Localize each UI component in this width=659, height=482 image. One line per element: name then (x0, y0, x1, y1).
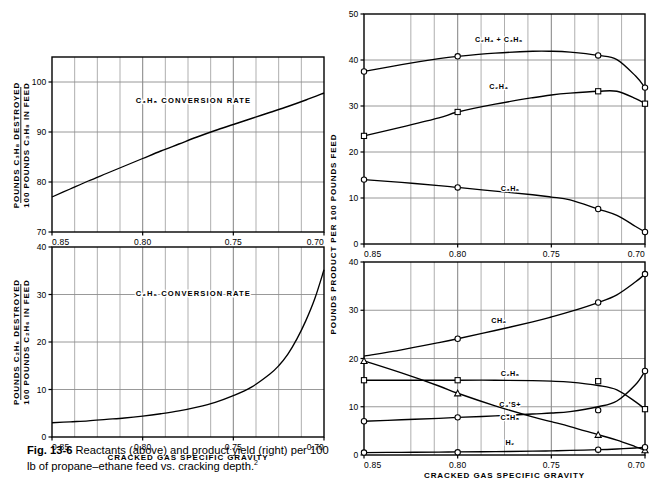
x-tick-label: 0.75 (543, 460, 560, 470)
data-marker (455, 378, 460, 383)
x-tick-label: 0.85 (52, 237, 69, 247)
figure-caption: Fig. 13-6 Reactants (above) and product … (27, 443, 332, 473)
x-tick-label: 0.85 (364, 249, 381, 259)
data-marker (361, 419, 366, 424)
y-tick-label: 20 (349, 354, 359, 364)
y-tick-label: 100 (32, 77, 47, 87)
data-marker (642, 229, 647, 234)
y-tick-label: 90 (37, 127, 47, 137)
data-marker (642, 407, 647, 412)
data-marker (455, 109, 460, 114)
data-marker (596, 89, 601, 94)
y-axis-title-ethane: POUNDS C₂H₆ DESTROYED100 POUNDS C₂H₆ IN … (12, 279, 31, 405)
x-tick-label: 0.80 (449, 249, 466, 259)
x-tick-label: 0.75 (543, 249, 560, 259)
y-tick-label: 0 (354, 239, 359, 249)
data-marker (642, 445, 647, 450)
data-marker (595, 206, 600, 211)
x-tick-label: 0.80 (134, 237, 151, 247)
data-marker (642, 101, 647, 106)
chart-propane-conversion: 0.850.800.750.70708090100C₃H₈ CONVERSION… (32, 57, 324, 247)
data-marker (361, 69, 366, 74)
plot-title: C₂H₆ CONVERSION RATE (136, 289, 251, 298)
series-label: C₂H₄ (489, 82, 508, 91)
data-marker (361, 133, 366, 138)
x-axis-title: CRACKED GAS SPECIFIC GRAVITY (424, 471, 585, 480)
y-tick-label: 30 (37, 290, 47, 300)
y-axis-title-propane: POUNDS C₃H₈ DESTROYED100 POUNDS C₃H₈ IN … (12, 82, 31, 208)
y-axis-title-ethane-line1: POUNDS C₂H₆ DESTROYED (12, 279, 21, 405)
y-tick-label: 50 (349, 9, 359, 19)
caption-footnote-marker: 2 (254, 459, 258, 466)
data-marker (455, 450, 460, 455)
data-marker (361, 450, 366, 455)
x-tick-label: 0.70 (628, 249, 645, 259)
data-marker (596, 379, 601, 384)
y-tick-label: 20 (349, 147, 359, 157)
data-marker (595, 407, 600, 412)
caption-text: Reactants (above) and product yield (rig… (27, 444, 329, 472)
y-tick-label: 40 (37, 242, 47, 252)
y-tick-label: 10 (37, 385, 47, 395)
x-tick-label: 0.70 (628, 460, 645, 470)
y-axis-title-product: POUNDS PRODUCT PER 100 POUNDS FEED (329, 134, 338, 335)
data-marker (361, 177, 366, 182)
x-tick-label: 0.70 (307, 237, 324, 247)
y-tick-label: 0 (354, 450, 359, 460)
data-marker (642, 271, 647, 276)
y-tick-label: 40 (349, 257, 359, 267)
data-marker (455, 54, 460, 59)
series-label: C₃H₆ (501, 184, 520, 193)
y-axis-title-propane-line2: 100 POUNDS C₃H₈ IN FEED (22, 82, 31, 208)
series-label: H₂ (505, 438, 514, 447)
y-axis-title-product-line1: POUNDS PRODUCT PER 100 POUNDS FEED (329, 134, 338, 335)
chart-product-yield: 0.850.800.750.70010203040CH₄CH₄C₂H₆C₂H₆C… (349, 257, 648, 480)
y-tick-label: 20 (37, 337, 47, 347)
y-axis-title-propane-line1: POUNDS C₃H₈ DESTROYED (12, 82, 21, 208)
caption-label: Fig. 13-6 (27, 444, 72, 456)
figure-svg: 0.850.800.750.70708090100C₃H₈ CONVERSION… (0, 0, 659, 482)
plot-title: C₃H₈ CONVERSION RATE (136, 96, 251, 105)
y-axis-title-ethane-line2: 100 POUNDS C₂H₆ IN FEED (22, 279, 31, 404)
y-tick-label: 70 (37, 227, 47, 237)
y-tick-label: 30 (349, 305, 359, 315)
figure-13-6: 0.850.800.750.70708090100C₃H₈ CONVERSION… (0, 0, 659, 482)
data-marker (455, 415, 460, 420)
data-marker (595, 300, 600, 305)
y-tick-label: 10 (349, 402, 359, 412)
y-tick-label: 0 (42, 432, 47, 442)
y-tick-label: 30 (349, 101, 359, 111)
series-label: C₃H₈ (501, 413, 520, 422)
chart-ethane-conversion: 0.850.800.750.70010203040C₂H₆ CONVERSION… (37, 242, 324, 462)
x-tick-label: 0.80 (449, 460, 466, 470)
series-label: C₂H₆ (501, 369, 520, 378)
x-tick-label: 0.75 (225, 237, 242, 247)
data-marker (455, 336, 460, 341)
x-tick-label: 0.85 (364, 460, 381, 470)
y-tick-label: 10 (349, 193, 359, 203)
data-marker (361, 378, 366, 383)
chart-olefin-yield: 0.850.800.750.7001020304050C₂H₄ + C₃H₆C₂… (349, 9, 648, 258)
y-tick-label: 80 (37, 177, 47, 187)
y-tick-label: 40 (349, 55, 359, 65)
series-label: CH₄ (491, 316, 506, 325)
data-marker (642, 85, 647, 90)
series-label: C₂H₄ + C₃H₆ (475, 35, 523, 44)
data-marker (595, 53, 600, 58)
data-marker (642, 368, 647, 373)
data-marker (455, 185, 460, 190)
data-marker (595, 447, 600, 452)
